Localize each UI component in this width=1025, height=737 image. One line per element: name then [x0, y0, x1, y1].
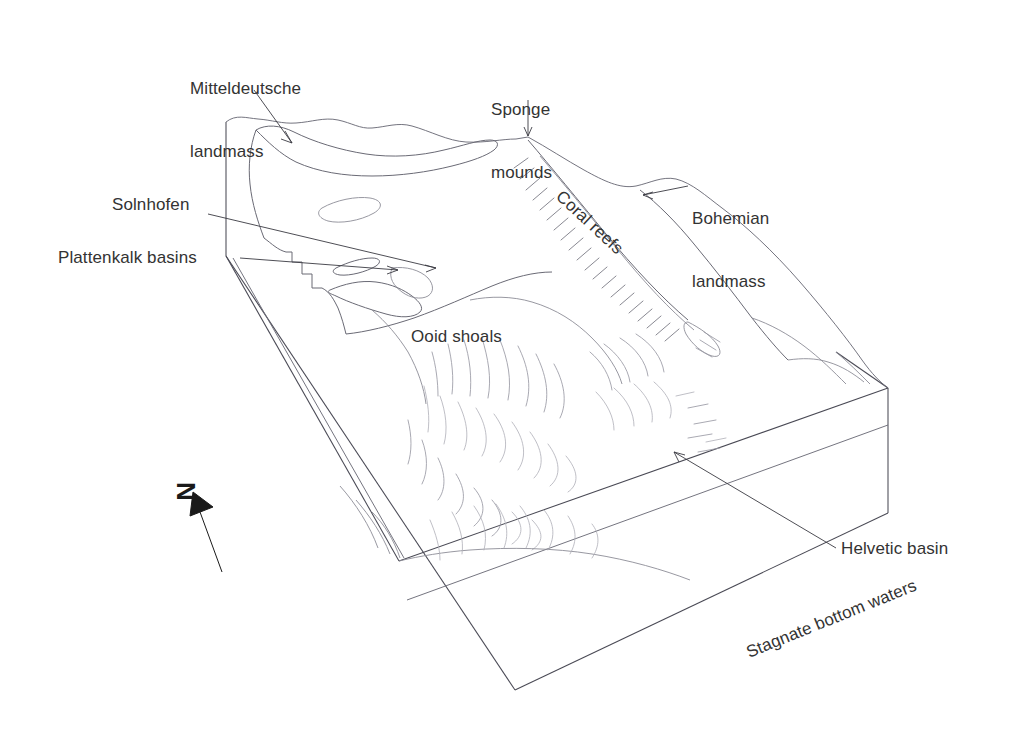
label-mitteldeutsche-landmass: Mitteldeutsche landmass	[190, 36, 301, 204]
plattenkalk-basin-group	[264, 238, 552, 334]
north-arrow-group	[190, 492, 222, 572]
label-solnhofen: Solnhofen	[112, 194, 189, 215]
leader-plattenkalk	[240, 258, 398, 270]
label-plattenkalk-basins: Plattenkalk basins	[58, 247, 197, 268]
label-mitteldeutsche-line2: landmass	[190, 141, 301, 162]
label-bohemian-line1: Bohemian	[692, 208, 769, 229]
edge-bottom-front	[515, 513, 888, 690]
label-north: N	[175, 482, 196, 501]
edge-front-slab-bottom	[407, 425, 888, 600]
label-helvetic-basin: Helvetic basin	[841, 538, 948, 559]
leader-helvetic	[674, 452, 836, 548]
lagoon-oval	[319, 197, 381, 222]
label-ooid-shoals: Ooid shoals	[411, 326, 502, 347]
front-face-basin-curve	[399, 548, 690, 580]
label-bohemian-line2: landmass	[692, 271, 769, 292]
leader-bohemian	[643, 186, 688, 195]
label-sponge-mounds-line1: Sponge	[491, 99, 552, 120]
bohemian-coast-east	[788, 359, 864, 382]
label-bohemian-landmass: Bohemian landmass	[692, 166, 769, 334]
figure-root: Mitteldeutsche landmass Sponge mounds Bo…	[0, 0, 1025, 737]
label-sponge-mounds-line2: mounds	[491, 162, 552, 183]
edge-right-back-upper	[836, 352, 888, 388]
shelf-edge-south	[346, 272, 552, 334]
edge-left-slab-inner	[233, 258, 404, 558]
label-sponge-mounds: Sponge mounds	[491, 57, 552, 225]
leader-solnhofen	[208, 214, 436, 268]
label-mitteldeutsche-line1: Mitteldeutsche	[190, 78, 301, 99]
edge-left-slab	[226, 256, 399, 561]
basin-stepped-margin	[264, 238, 346, 334]
basin-plattenkalk-lobe-1	[328, 281, 421, 316]
cross-section-face	[340, 486, 690, 580]
block-top-surface	[226, 117, 888, 388]
shoal-boundary-west	[372, 310, 426, 404]
